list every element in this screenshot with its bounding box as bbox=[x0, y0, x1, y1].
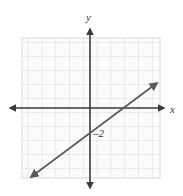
y-axis-label: y bbox=[86, 12, 91, 23]
x-axis-label: x bbox=[170, 104, 175, 115]
coordinate-plane-figure: y x –2 bbox=[0, 0, 183, 196]
y-intercept-label: –2 bbox=[93, 128, 104, 139]
graph-canvas bbox=[0, 0, 183, 196]
